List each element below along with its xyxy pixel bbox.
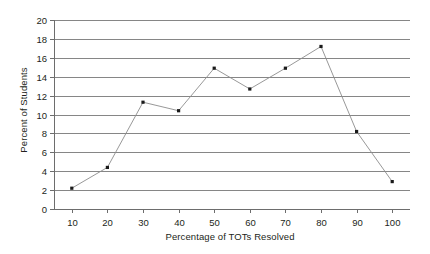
x-tick-label: 70 [280,217,291,228]
y-tick-labels: 02468101214161820 [36,15,47,215]
x-tick-label: 80 [316,217,327,228]
y-tick-label: 8 [42,128,47,139]
y-tick-label: 16 [36,53,47,64]
data-point-marker [248,87,251,90]
x-tick-labels: 102030405060708090100 [67,217,400,228]
y-tick-label: 2 [42,185,47,196]
series-line [72,46,392,188]
y-tick-label: 12 [36,91,47,102]
plot-area: 02468101214161820 102030405060708090100 [0,0,430,254]
y-tick-label: 14 [36,72,47,83]
data-point-marker [213,67,216,70]
x-tick-label: 60 [245,217,256,228]
line-chart: Percent of Students Percentage of TOTs R… [0,0,430,254]
data-point-marker [177,109,180,112]
y-tick-label: 18 [36,34,47,45]
data-point-marker [284,67,287,70]
x-tick-label: 30 [138,217,149,228]
data-point-marker [319,45,322,48]
x-tick-label: 40 [174,217,185,228]
series-markers [70,45,394,190]
data-point-marker [355,130,358,133]
x-tick-label: 50 [209,217,220,228]
y-tick-label: 4 [42,166,47,177]
x-tick-label: 10 [67,217,78,228]
x-tick-label: 20 [102,217,113,228]
data-point-marker [106,166,109,169]
y-tick-label: 20 [36,15,47,26]
y-tick-label: 6 [42,147,47,158]
y-tick-label: 10 [36,110,47,121]
data-point-marker [70,187,73,190]
x-tick-label: 90 [352,217,363,228]
data-point-marker [141,101,144,104]
data-point-marker [391,180,394,183]
x-tick-label: 100 [385,217,401,228]
y-tick-label: 0 [42,204,47,215]
y-tick-marks [50,21,54,210]
gridlines [54,21,410,210]
